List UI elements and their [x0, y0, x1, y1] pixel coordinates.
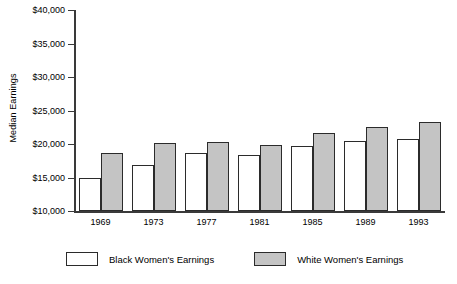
bar-white-1977: [185, 153, 207, 211]
x-axis-tick-label: 1985: [302, 217, 322, 227]
bar-gray-1973: [154, 143, 176, 211]
legend-entry: Black Women's Earnings: [66, 252, 214, 266]
y-axis-tick-label: $35,000: [32, 39, 65, 49]
y-axis-tick-label: $40,000: [32, 5, 65, 15]
bar-gray-1977: [207, 142, 229, 211]
median-earnings-bar-chart: Median Earnings $10,000$15,000$20,000$25…: [0, 0, 457, 284]
legend-swatch-gray: [254, 252, 286, 266]
plot-area: $10,000$15,000$20,000$25,000$30,000$35,0…: [74, 10, 445, 213]
x-axis-tick-label: 1989: [355, 217, 375, 227]
bar-gray-1981: [260, 145, 282, 211]
x-axis-tick-label: 1973: [143, 217, 163, 227]
bar-white-1985: [291, 146, 313, 211]
y-axis-tick: [68, 211, 74, 212]
bar-gray-1993: [419, 122, 441, 211]
bar-white-1993: [397, 139, 419, 211]
x-axis-tick-label: 1993: [408, 217, 428, 227]
x-axis-tick-label: 1969: [90, 217, 110, 227]
legend-label: White Women's Earnings: [297, 254, 403, 265]
chart-legend: Black Women's EarningsWhite Women's Earn…: [66, 252, 406, 266]
bars-layer: [74, 10, 445, 211]
x-axis-tick-label: 1981: [249, 217, 269, 227]
y-axis-tick-label: $10,000: [32, 206, 65, 216]
bar-white-1981: [238, 155, 260, 211]
y-axis-tick-label: $25,000: [32, 106, 65, 116]
bar-white-1989: [344, 141, 366, 211]
legend-label: Black Women's Earnings: [109, 254, 214, 265]
legend-swatch-white: [66, 252, 98, 266]
bar-gray-1985: [313, 133, 335, 211]
bar-white-1973: [132, 165, 154, 211]
y-axis-tick-label: $30,000: [32, 72, 65, 82]
y-axis-tick-label: $15,000: [32, 173, 65, 183]
legend-entry: White Women's Earnings: [254, 252, 403, 266]
bar-gray-1989: [366, 127, 388, 211]
bar-white-1969: [79, 178, 101, 212]
y-axis-title: Median Earnings: [8, 48, 18, 168]
bar-gray-1969: [101, 153, 123, 211]
y-axis-tick-label: $20,000: [32, 139, 65, 149]
x-axis-tick-label: 1977: [196, 217, 216, 227]
x-axis-line: [74, 211, 445, 213]
